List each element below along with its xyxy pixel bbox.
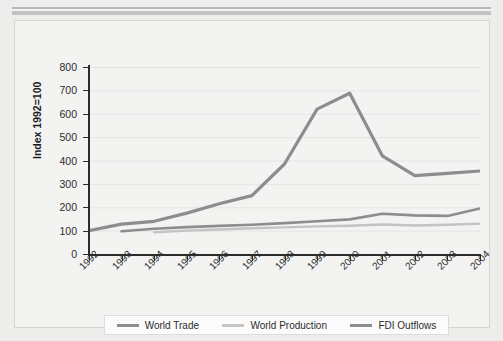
- series-line-2: [89, 93, 480, 230]
- top-rule-thick: [12, 11, 491, 15]
- legend-item-2[interactable]: FDI Outflows: [350, 320, 436, 331]
- y-tick: [83, 114, 89, 115]
- y-tick: [83, 207, 89, 208]
- y-axis-title: Index 1992=100: [31, 82, 43, 159]
- legend-swatch-icon: [350, 324, 372, 327]
- y-tick-label: 300: [45, 178, 77, 190]
- legend-item-label: World Production: [250, 320, 327, 331]
- series-line-1: [154, 224, 480, 233]
- y-tick: [83, 137, 89, 138]
- y-tick: [83, 90, 89, 91]
- y-tick-label: 100: [45, 225, 77, 237]
- y-tick-label: 200: [45, 201, 77, 213]
- page-background: Index 1992=100 0100200300400500600700800…: [0, 0, 503, 341]
- chart-legend: World Trade World Production FDI Outflow…: [104, 315, 449, 335]
- x-tick-label: 1992: [77, 248, 101, 272]
- chart-card: Index 1992=100 0100200300400500600700800…: [14, 20, 490, 328]
- legend-swatch-icon: [117, 324, 139, 327]
- y-tick: [83, 161, 89, 162]
- legend-item-label: World Trade: [145, 320, 199, 331]
- y-tick-label: 400: [45, 155, 77, 167]
- series-lines: [89, 67, 480, 254]
- top-rule-group: [12, 7, 491, 15]
- y-tick: [83, 231, 89, 232]
- y-tick-label: 600: [45, 108, 77, 120]
- plot-area: [89, 67, 480, 254]
- y-tick-label: 700: [45, 84, 77, 96]
- legend-item-0[interactable]: World Trade: [117, 320, 199, 331]
- legend-swatch-icon: [222, 324, 244, 327]
- y-tick-label: 500: [45, 131, 77, 143]
- y-tick-label: 0: [45, 248, 77, 260]
- y-tick: [83, 67, 89, 68]
- legend-item-1[interactable]: World Production: [222, 320, 327, 331]
- y-tick-label: 800: [45, 61, 77, 73]
- legend-item-label: FDI Outflows: [378, 320, 436, 331]
- y-tick: [83, 184, 89, 185]
